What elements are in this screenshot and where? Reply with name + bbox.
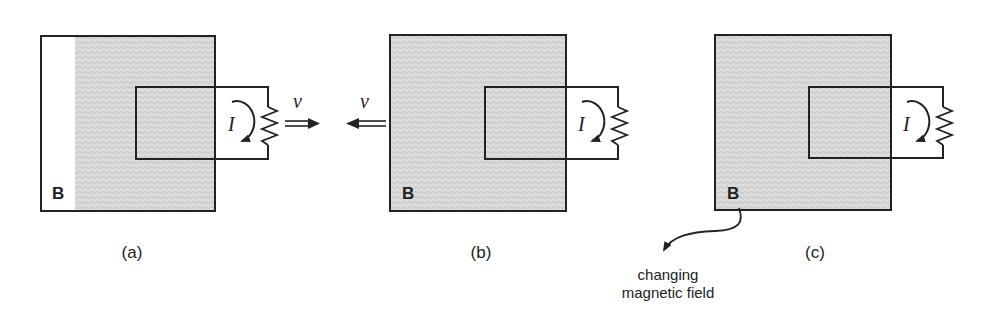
current-label: I bbox=[577, 113, 586, 135]
resistor-icon bbox=[937, 107, 952, 145]
velocity-label: v bbox=[293, 90, 302, 112]
velocity-label: v bbox=[360, 90, 369, 112]
field-label: B bbox=[727, 184, 739, 203]
current-direction-arrow-icon bbox=[582, 101, 604, 141]
annotation-line-2: magnetic field bbox=[622, 284, 715, 301]
velocity-arrow-right-icon bbox=[285, 118, 320, 129]
current-direction-arrow-icon bbox=[907, 101, 929, 141]
current-label: I bbox=[902, 113, 911, 135]
current-direction-arrow-icon bbox=[232, 101, 254, 141]
magnetic-field-region bbox=[390, 35, 566, 211]
velocity-arrow-left-icon bbox=[346, 118, 386, 129]
current-label: I bbox=[227, 113, 236, 135]
panel-b: I v B (b) bbox=[346, 35, 627, 262]
faraday-induction-figure: I v B (a) I v B (b) bbox=[0, 0, 983, 311]
resistor-icon bbox=[262, 107, 277, 145]
field-label: B bbox=[402, 184, 414, 203]
panel-caption: (a) bbox=[122, 243, 143, 262]
magnetic-field-region bbox=[715, 35, 891, 210]
magnetic-field-region bbox=[75, 37, 215, 211]
annotation-line-1: changing bbox=[638, 266, 699, 283]
panel-a: I v B (a) bbox=[41, 36, 320, 262]
panel-caption: (b) bbox=[471, 243, 492, 262]
field-label: B bbox=[52, 184, 64, 203]
panel-caption: (c) bbox=[805, 243, 825, 262]
pointer-arrow-icon bbox=[664, 208, 741, 250]
panel-c: I B (c) changing magnetic field bbox=[622, 35, 952, 301]
resistor-icon bbox=[612, 107, 627, 145]
